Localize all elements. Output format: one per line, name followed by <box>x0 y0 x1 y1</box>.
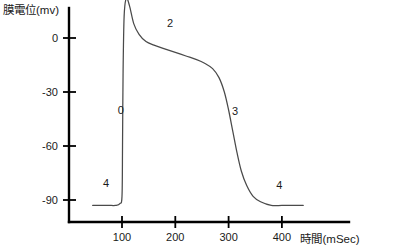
action-potential-curve <box>93 0 304 206</box>
x-axis-ticks: 100200300400 <box>113 216 291 243</box>
y-tick-label--90: -90 <box>42 194 58 206</box>
y-tick-label--60: -60 <box>42 140 58 152</box>
phase-4-right-label: 4 <box>276 179 282 191</box>
y-tick-label--30: -30 <box>42 86 58 98</box>
x-tick-label-100: 100 <box>113 231 131 243</box>
y-tick-label-0: 0 <box>52 32 58 44</box>
phase-2-label: 2 <box>167 17 173 29</box>
x-axis-title: 時間(mSec) <box>300 233 359 245</box>
action-potential-chart: 膜電位(mv) 時間(mSec) 0-30-60-90 100200300400… <box>0 0 395 251</box>
phase-0-label: 0 <box>118 104 124 116</box>
phase-annotations: 012344 <box>103 0 282 191</box>
action-potential-curve-group <box>93 0 304 206</box>
phase-3-label: 3 <box>232 105 238 117</box>
x-tick-label-400: 400 <box>273 231 291 243</box>
x-tick-label-200: 200 <box>166 231 184 243</box>
x-tick-label-300: 300 <box>219 231 237 243</box>
y-axis-ticks: 0-30-60-90 <box>42 32 76 206</box>
phase-4-left-label: 4 <box>103 177 109 189</box>
y-axis-title: 膜電位(mv) <box>3 3 59 16</box>
